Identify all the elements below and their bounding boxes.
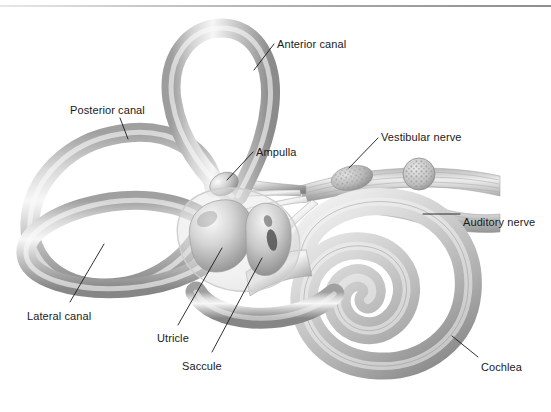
label-cochlea: Cochlea	[481, 361, 522, 373]
label-posterior-canal: Posterior canal	[70, 104, 145, 116]
cochlea-spiral	[300, 202, 468, 367]
label-vestibular-nerve: Vestibular nerve	[381, 131, 461, 143]
label-auditory-nerve: Auditory nerve	[463, 216, 535, 228]
canal-limbs	[196, 292, 334, 318]
anterior-canal-loop	[171, 28, 270, 196]
inner-ear-diagram: Anterior canalPosterior canalAmpullaVest…	[0, 0, 551, 412]
label-lateral-canal: Lateral canal	[27, 310, 91, 322]
anatomy-illustration	[0, 0, 551, 412]
leader-vestibular-nerve	[349, 138, 378, 168]
nerve-cut-end	[403, 158, 435, 190]
label-ampulla: Ampulla	[256, 146, 296, 158]
label-anterior-canal: Anterior canal	[277, 38, 346, 50]
label-saccule: Saccule	[182, 360, 222, 372]
label-utricle: Utricle	[157, 332, 189, 344]
